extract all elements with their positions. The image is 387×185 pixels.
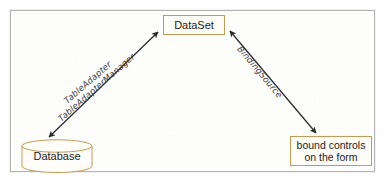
diagram-canvas: DataSet --> bound controls --> Database … — [0, 0, 387, 185]
node-dataset-label: DataSet — [174, 19, 214, 31]
node-database[interactable]: Database — [21, 139, 93, 173]
node-database-label: Database — [21, 150, 93, 162]
node-bound-controls-label-line1: bound controls — [297, 140, 366, 152]
node-dataset[interactable]: DataSet — [163, 15, 225, 35]
node-bound-controls-label-line2: on the form — [304, 152, 357, 164]
node-bound-controls[interactable]: bound controls on the form — [290, 136, 372, 166]
